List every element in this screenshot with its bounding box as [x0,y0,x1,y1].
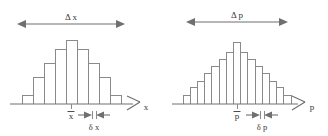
delta-small-p-arrows [246,111,278,119]
uncertainty-figure: Δ x [0,0,328,136]
p-axis [172,96,305,110]
momentum-histogram-panel: Δ p [164,0,328,136]
position-bars [22,40,121,104]
delta-p-label: Δ p [231,10,244,20]
p-axis-label: p [310,102,315,112]
x-mean-label: x [69,111,74,121]
delta-small-x-label: δ x [89,122,100,132]
position-histogram-panel: Δ x [0,0,164,136]
x-axis-label: x [144,102,149,112]
p-mean-label: p [235,111,240,121]
delta-x-label: Δ x [65,12,78,22]
delta-small-p-label: δ p [257,122,267,132]
delta-small-x-arrows [78,111,110,119]
momentum-bars [183,42,291,104]
